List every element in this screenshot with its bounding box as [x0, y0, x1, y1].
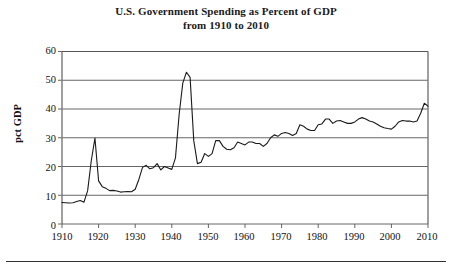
x-tick-label: 2010: [407, 231, 447, 242]
plot-area: pct GDP 60 50 40 30 20 10 0 1910 1920 19…: [0, 0, 452, 272]
x-tick-label: 1930: [115, 231, 155, 242]
footer-divider: [6, 261, 446, 262]
x-tick-label: 1910: [42, 231, 82, 242]
axis-ticks: [58, 52, 428, 229]
x-tick-label: 2000: [370, 231, 410, 242]
x-tick-label: 1920: [78, 231, 118, 242]
x-tick-label: 1960: [224, 231, 264, 242]
x-tick-label: 1980: [297, 231, 337, 242]
x-tick-label: 1990: [334, 231, 374, 242]
gridlines: [62, 52, 428, 196]
y-tick-label: 30: [30, 134, 56, 144]
y-tick-label: 0: [30, 221, 56, 231]
x-tick-label: 1940: [151, 231, 191, 242]
x-tick-label: 1970: [261, 231, 301, 242]
x-tick-label: 1950: [188, 231, 228, 242]
y-axis-label: pct GDP: [12, 89, 23, 159]
y-tick-label: 40: [30, 104, 56, 114]
y-tick-label: 50: [30, 75, 56, 85]
y-tick-label: 60: [30, 46, 56, 56]
y-tick-label: 20: [30, 163, 56, 173]
chart-figure: U.S. Government Spending as Percent of G…: [0, 0, 452, 272]
y-tick-label: 10: [30, 192, 56, 202]
